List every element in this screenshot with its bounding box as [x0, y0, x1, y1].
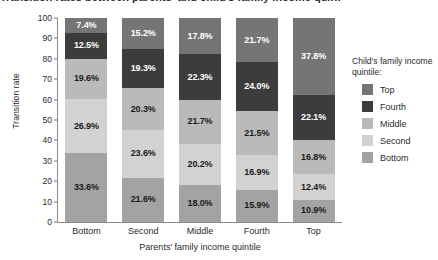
- chart-title: Transition rates between parents' and ch…: [0, 0, 340, 3]
- x-axis-line: [57, 222, 342, 223]
- bar-segment[interactable]: 24.0%: [236, 62, 278, 111]
- bar-segment[interactable]: 12.4%: [293, 174, 335, 199]
- x-axis-title: Parents' family income quintile: [58, 242, 342, 252]
- legend-swatch-icon: [362, 152, 373, 163]
- bar-segment[interactable]: 21.7%: [179, 100, 221, 144]
- bar-column[interactable]: 18.0%20.2%21.7%22.3%17.8%: [179, 18, 221, 222]
- bar-segment-label: 21.7%: [244, 36, 269, 45]
- legend-item[interactable]: Middle: [362, 118, 438, 129]
- x-axis-tick-label: Top: [279, 226, 349, 236]
- bar-segment[interactable]: 19.3%: [122, 49, 164, 88]
- bar-segment-label: 21.6%: [131, 195, 156, 204]
- bar-segment-label: 7.4%: [76, 21, 96, 30]
- bar-segment[interactable]: 23.6%: [122, 130, 164, 178]
- bar-segment[interactable]: 16.8%: [293, 140, 335, 174]
- bar-segment[interactable]: 17.8%: [179, 18, 221, 54]
- y-axis-tick-label: 10: [43, 197, 52, 207]
- bar-segment-label: 37.8%: [301, 52, 326, 61]
- legend-swatch-icon: [362, 135, 373, 146]
- bar-segment-label: 21.7%: [187, 117, 212, 126]
- bar-segment-label: 20.3%: [131, 105, 156, 114]
- bar-segment[interactable]: 16.9%: [236, 155, 278, 189]
- bar-column[interactable]: 21.6%23.6%20.3%19.3%15.2%: [122, 18, 164, 222]
- bar-segment-label: 16.9%: [244, 168, 269, 177]
- chart-figure: Transition rates between parents' and ch…: [0, 0, 438, 260]
- bar-column[interactable]: 10.9%12.4%16.8%22.1%37.8%: [293, 18, 335, 222]
- bar-segment-label: 20.2%: [187, 160, 212, 169]
- bar-segment-label: 12.4%: [301, 183, 326, 192]
- plot-area: 33.6%26.9%19.6%12.5%7.4%21.6%23.6%20.3%1…: [58, 18, 342, 222]
- bar-segment[interactable]: 18.0%: [179, 185, 221, 222]
- legend-swatch-icon: [362, 118, 373, 129]
- y-axis-tick-label: 60: [43, 95, 52, 105]
- bar-segment-label: 10.9%: [301, 206, 326, 215]
- legend-item-label: Bottom: [380, 153, 409, 163]
- bar-segment-label: 22.3%: [187, 73, 212, 82]
- legend-item[interactable]: Bottom: [362, 152, 438, 163]
- legend-item[interactable]: Second: [362, 135, 438, 146]
- bar-segment-label: 18.0%: [187, 199, 212, 208]
- y-axis-title: Transition rate: [11, 36, 21, 166]
- bar-segment-label: 12.5%: [74, 41, 99, 50]
- legend-swatch-icon: [362, 84, 373, 95]
- bar-segment[interactable]: 12.5%: [65, 33, 107, 59]
- bar-segment[interactable]: 37.8%: [293, 18, 335, 95]
- bar-segment[interactable]: 22.1%: [293, 95, 335, 140]
- y-axis-tick-label: 20: [43, 176, 52, 186]
- bar-segment-label: 21.5%: [244, 129, 269, 138]
- legend-item[interactable]: Top: [362, 84, 438, 95]
- bar-segment[interactable]: 15.9%: [236, 190, 278, 222]
- y-axis-tick-labels: 0102030405060708090100: [22, 18, 58, 222]
- y-axis-tick-label: 80: [43, 54, 52, 64]
- bar-segment[interactable]: 22.3%: [179, 54, 221, 99]
- y-axis-tick-label: 30: [43, 156, 52, 166]
- legend-item-label: Top: [380, 85, 395, 95]
- bar-segment-label: 16.8%: [301, 153, 326, 162]
- bar-segment[interactable]: 21.6%: [122, 178, 164, 222]
- y-axis-tick-label: 50: [43, 115, 52, 125]
- bar-segment-label: 15.2%: [131, 29, 156, 38]
- bar-segment-label: 22.1%: [301, 113, 326, 122]
- legend: Child's family income quintile: TopFourt…: [352, 56, 438, 169]
- bar-segment-label: 33.6%: [74, 183, 99, 192]
- bar-segment[interactable]: 7.4%: [65, 18, 107, 33]
- bar-segment[interactable]: 33.6%: [65, 153, 107, 222]
- bar-segment-label: 19.3%: [131, 64, 156, 73]
- bar-segment-label: 23.6%: [131, 149, 156, 158]
- y-axis-tick-label: 90: [43, 33, 52, 43]
- bar-segment-label: 15.9%: [244, 201, 269, 210]
- bar-column[interactable]: 33.6%26.9%19.6%12.5%7.4%: [65, 18, 107, 222]
- bar-segment[interactable]: 19.6%: [65, 59, 107, 99]
- bar-segment[interactable]: 20.3%: [122, 88, 164, 129]
- legend-rows: TopFourthMiddleSecondBottom: [352, 84, 438, 163]
- bar-segment[interactable]: 21.7%: [236, 18, 278, 62]
- bar-segment[interactable]: 10.9%: [293, 200, 335, 222]
- bar-segment-label: 26.9%: [74, 122, 99, 131]
- legend-item[interactable]: Fourth: [362, 101, 438, 112]
- legend-item-label: Second: [380, 136, 411, 146]
- y-axis-tick-label: 40: [43, 135, 52, 145]
- legend-item-label: Fourth: [380, 102, 406, 112]
- bar-segment[interactable]: 15.2%: [122, 18, 164, 49]
- legend-swatch-icon: [362, 101, 373, 112]
- bar-segment-label: 17.8%: [187, 32, 212, 41]
- bar-column[interactable]: 15.9%16.9%21.5%24.0%21.7%: [236, 18, 278, 222]
- bar-segment[interactable]: 20.2%: [179, 144, 221, 185]
- legend-item-label: Middle: [380, 119, 407, 129]
- bar-segment-label: 24.0%: [244, 82, 269, 91]
- y-axis-tick-label: 70: [43, 74, 52, 84]
- legend-title: Child's family income quintile:: [352, 56, 438, 77]
- bar-segment[interactable]: 21.5%: [236, 111, 278, 155]
- y-axis-tick-label: 100: [38, 13, 52, 23]
- bar-segment-label: 19.6%: [74, 74, 99, 83]
- bar-segment[interactable]: 26.9%: [65, 99, 107, 154]
